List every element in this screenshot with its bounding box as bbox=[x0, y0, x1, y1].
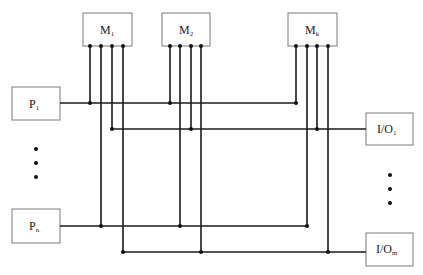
processor-p1: P1 bbox=[12, 87, 60, 120]
io-unit-m: I/Om bbox=[366, 233, 413, 266]
memory-m1: M1 bbox=[83, 13, 132, 46]
ellipsis-io bbox=[388, 173, 392, 205]
memory-mk: Mk bbox=[288, 13, 337, 46]
memory-buses bbox=[90, 46, 328, 252]
memory-m2: M2 bbox=[162, 13, 210, 46]
crossbar-diagram: M1 M2 Mk P1 Pn I/O1 I/Om bbox=[0, 0, 423, 275]
ellipsis-processors bbox=[34, 147, 38, 179]
device-buses bbox=[60, 103, 366, 252]
io-unit-1: I/O1 bbox=[366, 113, 413, 145]
processor-pn: Pn bbox=[12, 209, 60, 243]
junctions bbox=[88, 101, 330, 254]
